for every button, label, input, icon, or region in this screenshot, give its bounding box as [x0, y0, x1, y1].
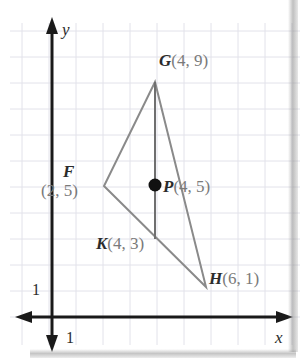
point-label-H-name: H — [209, 269, 222, 288]
y-axis-label: y — [62, 20, 70, 40]
point-label-H: H(6, 1) — [209, 270, 259, 288]
coordinate-plane-figure: G(4, 9) F(2, 5) P(4, 5) K(4, 3) H(6, 1) … — [0, 0, 304, 361]
y-axis-unit-tick-label: 1 — [32, 281, 40, 299]
point-label-F-coords: (2, 5) — [41, 182, 78, 200]
point-label-F: F(2, 5) — [63, 163, 78, 200]
x-axis-unit-tick-label: 1 — [66, 329, 74, 347]
point-label-P: P(4, 5) — [163, 178, 210, 196]
point-P-marker — [149, 179, 162, 192]
point-label-G: G(4, 9) — [159, 52, 208, 70]
point-label-K: K(4, 3) — [96, 235, 144, 253]
point-label-G-name: G — [159, 51, 171, 70]
x-axis — [15, 311, 293, 323]
point-label-P-coords: (4, 5) — [173, 177, 210, 196]
x-axis-label: x — [275, 328, 283, 348]
point-label-K-name: K — [96, 234, 107, 253]
point-label-P-name: P — [163, 177, 173, 196]
point-label-K-coords: (4, 3) — [107, 234, 144, 253]
point-label-G-coords: (4, 9) — [171, 51, 208, 70]
point-label-F-name: F — [63, 162, 74, 181]
point-label-H-coords: (6, 1) — [222, 269, 259, 288]
